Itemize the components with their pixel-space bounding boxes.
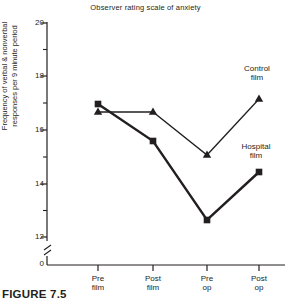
x-category-post-op-line2: op <box>237 283 281 293</box>
marker-hospital-film-post-op <box>256 169 263 176</box>
marker-control-film-post-film <box>149 108 157 115</box>
marker-hospital-film-pre-op <box>204 217 211 224</box>
series-label-hospital-film-line2: film <box>232 151 280 161</box>
x-category-pre-film-line2: film <box>76 283 120 293</box>
figure-container: Observer rating scale of anxiety Frequen… <box>0 0 291 305</box>
axis-break-mark-lower <box>44 250 51 255</box>
marker-control-film-pre-film <box>94 108 102 115</box>
marker-control-film-post-op <box>255 95 263 102</box>
x-category-pre-op-line2: op <box>185 283 229 293</box>
series-label-control-film-line2: film <box>233 73 281 83</box>
axis-break-mark-upper <box>44 245 51 250</box>
series-line-hospital-film <box>98 104 259 220</box>
x-category-post-film-line2: film <box>131 283 175 293</box>
figure-caption: FIGURE 7.5 <box>2 288 67 300</box>
marker-hospital-film-post-film <box>150 138 157 145</box>
marker-hospital-film-pre-film <box>95 101 102 108</box>
